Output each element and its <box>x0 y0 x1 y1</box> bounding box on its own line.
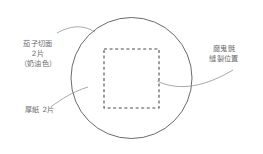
label-velcro-line2: 縫製位置 <box>200 54 248 64</box>
label-velcro-line1: 魔鬼氈 <box>200 44 248 54</box>
label-cardboard-line1: 厚紙 2片 <box>25 105 85 115</box>
label-velcro: 魔鬼氈 縫製位置 <box>200 44 248 64</box>
outer-circle-shape <box>71 18 192 139</box>
label-eggplant-slice-line2: 2片 <box>12 49 64 59</box>
label-eggplant-slice-line3: （奶油色） <box>12 59 64 69</box>
pattern-diagram <box>0 0 263 154</box>
leader-line-eggplant <box>57 27 95 33</box>
leader-line-cardboard <box>52 87 88 106</box>
leader-line-velcro <box>157 70 233 87</box>
diagram-canvas: 茄子切面 2片 （奶油色） 厚紙 2片 魔鬼氈 縫製位置 <box>0 0 263 154</box>
label-eggplant-slice-line1: 茄子切面 <box>12 39 64 49</box>
velcro-stitch-square-shape <box>104 49 159 108</box>
label-eggplant-slice: 茄子切面 2片 （奶油色） <box>12 39 64 70</box>
label-cardboard: 厚紙 2片 <box>25 105 85 115</box>
